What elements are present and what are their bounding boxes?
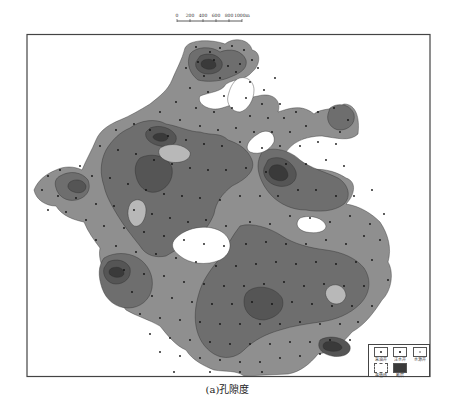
- well-icon: [175, 101, 177, 103]
- well-icon: [305, 163, 307, 165]
- well-icon: [345, 243, 347, 245]
- scale-label: 200: [186, 13, 195, 18]
- well-icon: [143, 273, 145, 275]
- well-icon: [131, 291, 133, 293]
- well-icon: [299, 355, 301, 357]
- well-icon: [209, 371, 211, 373]
- well-icon: [215, 265, 217, 267]
- scale-label: 800: [225, 13, 234, 18]
- well-icon: [195, 46, 197, 48]
- well-icon: [151, 295, 153, 297]
- well-icon: [253, 131, 255, 133]
- well-icon: [171, 163, 173, 165]
- legend-item-injection-well: 注水井: [391, 347, 409, 362]
- well-icon: [217, 129, 219, 131]
- well-icon: [371, 189, 373, 191]
- well-icon: [123, 269, 125, 271]
- well-icon: [169, 337, 171, 339]
- well-icon: [325, 239, 327, 241]
- well-icon: [331, 305, 333, 307]
- well-icon: [183, 239, 185, 241]
- scale-label: 1000m: [234, 13, 250, 18]
- well-icon: [95, 203, 97, 205]
- well-icon: [343, 165, 345, 167]
- well-icon: [239, 63, 241, 65]
- well-icon: [149, 129, 151, 131]
- well-icon: [75, 197, 77, 199]
- well-icon: [95, 239, 97, 241]
- well-icon: [159, 317, 161, 319]
- well-icon: [173, 371, 175, 373]
- well-icon: [383, 213, 385, 215]
- well-icon: [195, 261, 197, 263]
- contour-line-icon: [374, 363, 388, 373]
- well-icon: [123, 227, 125, 229]
- well-icon: [259, 323, 261, 325]
- well-icon: [235, 265, 237, 267]
- well-icon: [357, 321, 359, 323]
- well-icon: [191, 301, 193, 303]
- well-icon: [155, 253, 157, 255]
- well-icon: [271, 303, 273, 305]
- well-icon: [279, 323, 281, 325]
- well-icon: [195, 107, 197, 109]
- well-icon: [235, 71, 237, 73]
- well-icon: [265, 241, 267, 243]
- well-icon: [223, 245, 225, 247]
- well-icon: [279, 357, 281, 359]
- well-icon: [135, 153, 137, 155]
- well-icon: [285, 163, 287, 165]
- well-icon: [47, 175, 49, 177]
- well-icon: [261, 147, 263, 149]
- well-icon: [221, 145, 223, 147]
- well-icon: [231, 303, 233, 305]
- well-icon: [251, 59, 253, 61]
- well-icon: [117, 149, 119, 151]
- well-icon: [274, 77, 276, 79]
- well-icon: [261, 371, 263, 373]
- well-icon: [229, 343, 231, 345]
- well-icon: [259, 361, 261, 363]
- well-icon: [187, 221, 189, 223]
- well-icon: [185, 67, 187, 69]
- well-icon: [279, 103, 281, 105]
- well-icon: [297, 189, 299, 191]
- well-icon: [127, 183, 129, 185]
- well-icon: [283, 281, 285, 283]
- well-icon: [163, 235, 165, 237]
- well-icon: [319, 323, 321, 325]
- well-icon: [349, 215, 351, 217]
- figure-caption: (a)孔隙度: [0, 381, 455, 396]
- well-icon: [295, 263, 297, 265]
- well-icon: [289, 215, 291, 217]
- well-icon: [275, 261, 277, 263]
- well-icon: [171, 297, 173, 299]
- well-icon: [351, 305, 353, 307]
- well-icon: [305, 243, 307, 245]
- legend-item-contour: 等值线: [372, 363, 390, 378]
- well-icon: [245, 167, 247, 169]
- well-icon: [219, 359, 221, 361]
- well-icon: [57, 195, 59, 197]
- well-icon: [103, 225, 105, 227]
- well-icon: [231, 107, 233, 109]
- well-icon: [295, 111, 297, 113]
- well-icon: [225, 225, 227, 227]
- injection-well-icon: [399, 351, 401, 353]
- well-icon: [163, 275, 165, 277]
- well-icon: [163, 193, 165, 195]
- well-icon: [239, 323, 241, 325]
- well-icon: [151, 213, 153, 215]
- well-icon: [199, 321, 201, 323]
- oil-well-icon: [380, 351, 382, 353]
- well-icon: [323, 283, 325, 285]
- well-icon: [363, 235, 365, 237]
- well-icon: [183, 281, 185, 283]
- well-icon: [153, 159, 155, 161]
- scale-bar: 02004006008001000m: [176, 13, 251, 22]
- well-icon: [175, 257, 177, 259]
- well-icon: [239, 195, 241, 197]
- well-icon: [325, 159, 327, 161]
- well-icon: [115, 245, 117, 247]
- well-icon: [249, 343, 251, 345]
